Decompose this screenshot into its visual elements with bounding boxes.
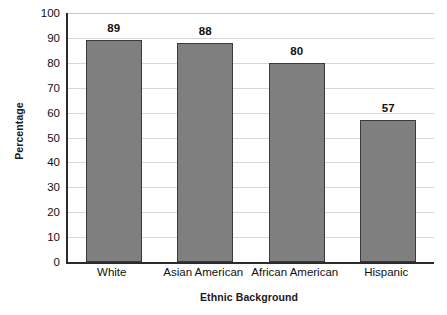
gridline — [68, 13, 434, 14]
plot-inner: 89888057 — [68, 13, 434, 262]
bar-chart: Percentage 1009080706050403020100 898880… — [0, 0, 447, 315]
y-axis-tick-label: 70 — [47, 82, 60, 94]
y-axis-tick-label: 50 — [47, 132, 60, 144]
bar[interactable] — [86, 40, 142, 262]
bar-value-label: 88 — [175, 25, 235, 37]
plot-area: 89888057 — [66, 13, 434, 264]
y-axis-tick-label: 20 — [47, 206, 60, 218]
bar-value-label: 80 — [267, 45, 327, 57]
y-axis-tick-label: 30 — [47, 181, 60, 193]
y-axis-title-text: Percentage — [13, 102, 25, 160]
x-axis-tick-labels: WhiteAsian AmericanAfrican AmericanHispa… — [66, 266, 432, 286]
y-axis-tick-label: 90 — [47, 32, 60, 44]
bar-value-label: 57 — [358, 102, 418, 114]
bar[interactable] — [269, 63, 325, 262]
bar[interactable] — [360, 120, 416, 262]
y-axis-tick-labels: 1009080706050403020100 — [30, 0, 64, 276]
y-axis-tick-label: 80 — [47, 57, 60, 69]
y-axis-title: Percentage — [8, 0, 30, 262]
y-axis-tick-label: 60 — [47, 107, 60, 119]
x-axis-tick-label: Hispanic — [326, 266, 446, 278]
x-axis-title: Ethnic Background — [66, 291, 432, 303]
gridline — [68, 38, 434, 39]
y-axis-tick-label: 100 — [41, 7, 60, 19]
y-axis-tick-label: 10 — [47, 231, 60, 243]
bar-value-label: 89 — [84, 22, 144, 34]
y-axis-tick-label: 40 — [47, 156, 60, 168]
bar[interactable] — [177, 43, 233, 262]
